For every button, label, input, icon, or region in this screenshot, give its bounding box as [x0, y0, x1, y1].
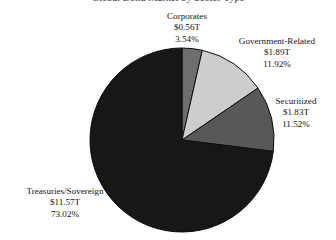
callout-government-related-amount: $1.89T — [218, 47, 336, 58]
callout-securitized: Securitized $1.83T 11.52% — [256, 96, 336, 130]
callout-securitized-name: Securitized — [256, 96, 336, 107]
callout-corporates-name: Corporates — [135, 11, 239, 22]
callout-corporates-amount: $0.56T — [135, 22, 239, 33]
callout-government-related: Government-Related $1.89T 11.92% — [218, 36, 336, 70]
callout-treasuries-sovereign-percent: 73.02% — [2, 209, 128, 220]
pie-chart-figure: Global Bond Market by Sector Type Corpor… — [0, 0, 336, 240]
callout-securitized-amount: $1.83T — [256, 107, 336, 118]
callout-government-related-percent: 11.92% — [218, 59, 336, 70]
callout-treasuries-sovereign: Treasuries/Sovereign $11.57T 73.02% — [2, 186, 128, 220]
callout-treasuries-sovereign-name: Treasuries/Sovereign — [2, 186, 128, 197]
callout-treasuries-sovereign-amount: $11.57T — [2, 197, 128, 208]
callout-government-related-name: Government-Related — [218, 36, 336, 47]
callout-securitized-percent: 11.52% — [256, 119, 336, 130]
